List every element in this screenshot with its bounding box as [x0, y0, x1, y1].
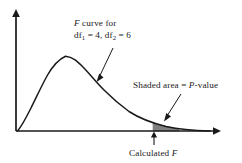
x-axis-arrowhead: [213, 127, 221, 135]
p-value-text: -value: [195, 80, 219, 90]
df2-subscript: 2: [113, 34, 116, 41]
shaded-area-annotation-label: Shaded area = P-value: [133, 80, 218, 92]
calculated-f-label: Calculated F: [129, 148, 177, 160]
curve-annotation-line2: df1 = 4, df2 = 6: [74, 30, 131, 42]
df2-value-text: = 6: [116, 30, 131, 40]
calculated-f-symbol: F: [172, 148, 178, 158]
f-distribution-figure: F curve for df1 = 4, df2 = 6 Shaded area…: [0, 0, 242, 163]
shaded-label-leader-arrowhead: [164, 113, 171, 122]
curve-annotation-label: F curve for df1 = 4, df2 = 6: [74, 18, 131, 41]
curve-for-text: curve for: [80, 18, 117, 28]
y-axis-arrowhead: [12, 9, 20, 17]
curve-label-leader-line: [100, 48, 114, 77]
shaded-area-text: Shaded area =: [133, 80, 189, 90]
calculated-text: Calculated: [129, 148, 172, 158]
shaded-label-leader-line: [167, 94, 181, 116]
curve-label-leader-arrowhead: [97, 74, 104, 82]
f-density-curve: [18, 56, 211, 131]
curve-annotation-line1: F curve for: [74, 18, 131, 30]
df1-text: df: [74, 30, 82, 40]
df1-value-text: = 4, df: [85, 30, 112, 40]
df1-subscript: 1: [82, 34, 85, 41]
calculated-f-tick-arrowhead: [151, 132, 157, 138]
